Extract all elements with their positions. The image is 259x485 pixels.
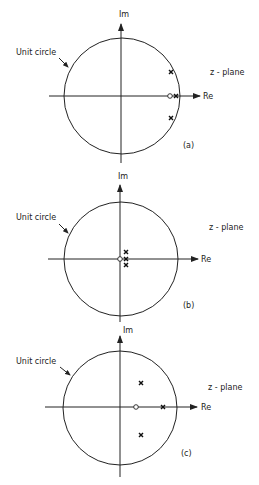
panel-c: Im Re z - plane (c) Unit circle bbox=[16, 326, 242, 477]
pole-zero-figure: Im Re z - plane (a) Unit circle Im Re z … bbox=[0, 0, 259, 485]
panel-caption: (c) bbox=[181, 449, 192, 458]
pole-marker bbox=[124, 250, 128, 254]
unit-circle-pointer-arrow bbox=[59, 224, 68, 233]
pole-marker bbox=[169, 70, 173, 74]
plane-label: z - plane bbox=[208, 383, 242, 392]
unit-circle-pointer-arrow bbox=[60, 367, 70, 375]
pole-marker bbox=[124, 263, 128, 267]
pole-marker bbox=[139, 433, 143, 437]
pole-marker bbox=[139, 381, 143, 385]
plane-label: z - plane bbox=[210, 68, 244, 77]
panel-caption: (b) bbox=[183, 301, 194, 310]
pole-marker bbox=[169, 116, 173, 120]
panel-a: Im Re z - plane (a) Unit circle bbox=[16, 10, 244, 163]
zero-marker bbox=[134, 405, 139, 410]
real-axis-label: Re bbox=[203, 92, 213, 101]
unit-circle-label: Unit circle bbox=[16, 213, 56, 222]
zero-marker bbox=[118, 257, 123, 262]
unit-circle-pointer-arrow bbox=[59, 58, 68, 67]
panel-caption: (a) bbox=[183, 141, 194, 150]
unit-circle-label: Unit circle bbox=[16, 357, 56, 366]
imag-axis-label: Im bbox=[123, 326, 133, 335]
panel-b: Im Re z - plane (b) Unit circle bbox=[16, 172, 243, 322]
plane-label: z - plane bbox=[209, 223, 243, 232]
imag-axis-label: Im bbox=[119, 10, 129, 19]
real-axis-label: Re bbox=[201, 255, 211, 264]
zero-marker bbox=[168, 94, 173, 99]
unit-circle-label: Unit circle bbox=[16, 48, 56, 57]
imag-axis-label: Im bbox=[118, 172, 128, 181]
real-axis-label: Re bbox=[201, 403, 211, 412]
